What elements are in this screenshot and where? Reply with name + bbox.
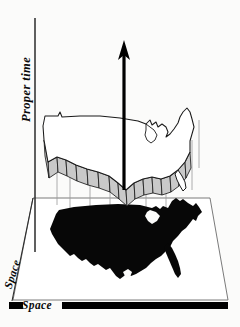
proper-time-axis-label: Proper time	[19, 57, 34, 122]
figure-canvas	[0, 0, 240, 327]
space-axis-bar-right	[62, 302, 228, 309]
extrusion-segment	[143, 177, 153, 195]
space-axis-bar-left	[9, 302, 23, 309]
extrusion-segment	[152, 177, 162, 195]
space-axis-horizontal-label: Space	[22, 299, 52, 311]
spacetime-figure: Proper time Space Space	[0, 0, 240, 327]
